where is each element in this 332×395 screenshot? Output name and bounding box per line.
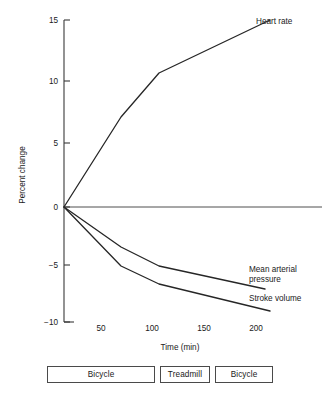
line-chart-plot: 15 10 5 0 −5 −10 Percent change 50 100 1… [0, 0, 332, 395]
series-label-heart-rate: Heart rate [256, 17, 293, 26]
y-axis-title: Percent change [18, 146, 27, 204]
legend-box-bicycle-2: Bicycle [215, 366, 273, 383]
y-tick-label-15: 15 [49, 16, 59, 25]
protocol-legend: Bicycle Treadmill Bicycle [0, 362, 332, 386]
y-tick-label-0: 0 [53, 203, 58, 212]
series-line-heart-rate [64, 20, 270, 207]
series-label-mean-arterial-pressure-line2: pressure [249, 275, 281, 284]
series-line-mean-arterial-pressure [64, 207, 265, 289]
series-line-stroke-volume [64, 207, 270, 311]
legend-box-treadmill: Treadmill [160, 366, 210, 383]
x-tick-label-150: 150 [197, 324, 211, 333]
x-tick-label-100: 100 [145, 324, 159, 333]
legend-box-bicycle-1: Bicycle [47, 366, 155, 383]
series-label-mean-arterial-pressure-line1: Mean arterial [249, 265, 297, 274]
y-tick-label-5: 5 [53, 139, 58, 148]
x-axis-title: Time (min) [161, 343, 200, 352]
y-tick-label-minus10: −10 [44, 318, 58, 327]
y-tick-label-minus5: −5 [49, 261, 59, 270]
x-tick-label-200: 200 [249, 324, 263, 333]
chart-figure: 15 10 5 0 −5 −10 Percent change 50 100 1… [0, 0, 332, 395]
series-label-stroke-volume: Stroke volume [249, 294, 302, 303]
y-tick-label-10: 10 [49, 77, 59, 86]
x-tick-label-50: 50 [96, 324, 106, 333]
